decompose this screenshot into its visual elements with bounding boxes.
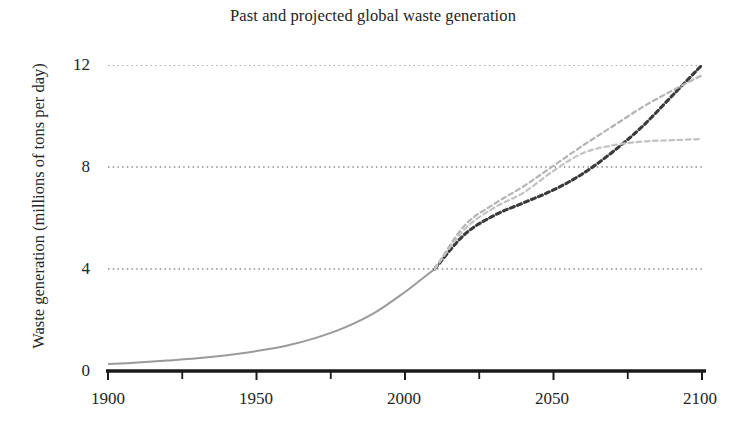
chart-figure: Past and projected global waste generati… <box>0 0 746 438</box>
x-axis <box>106 371 706 380</box>
axis-svg <box>0 0 746 438</box>
